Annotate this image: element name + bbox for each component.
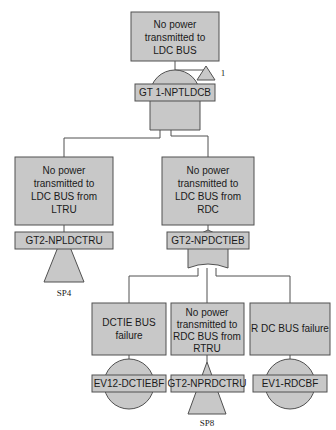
event-text-line: LDC BUS from xyxy=(175,191,241,202)
gate-label: EV12-DCTIEBF xyxy=(94,378,165,389)
connector-and-left xyxy=(64,128,160,157)
top-event[interactable]: No power transmitted to LDC BUS xyxy=(131,12,219,61)
event-text-line: No power xyxy=(43,165,86,176)
event-ltru[interactable]: No power transmitted to LDC BUS from LTR… xyxy=(15,157,113,225)
event-text-line: transmitted to xyxy=(178,178,239,189)
or-gate[interactable]: GT2-NPDCTIEB xyxy=(167,230,249,268)
gate-label: EV1-RDCBF xyxy=(262,378,319,389)
event-text-line: LDC BUS from xyxy=(31,191,97,202)
gate-label: GT2-NPLDCTRU xyxy=(25,235,102,246)
event-text-line: R DC BUS failure xyxy=(251,323,329,334)
top-event-text-line: transmitted to xyxy=(145,32,206,43)
event-rdc[interactable]: No power transmitted to LDC BUS from RDC xyxy=(162,157,254,225)
connector-or-left xyxy=(129,268,198,303)
event-dctie-bus[interactable]: DCTIE BUS failure xyxy=(92,303,166,355)
event-text-line: No power xyxy=(187,165,230,176)
event-box[interactable] xyxy=(92,303,166,355)
gate-label: GT 1-NPTLDCB xyxy=(139,87,211,98)
event-text-line: DCTIE BUS xyxy=(102,317,156,328)
transfer-marker-label: 1 xyxy=(221,68,226,78)
event-text-line: RDC xyxy=(197,204,219,215)
top-event-text-line: No power xyxy=(154,19,197,30)
basic-event-rdcbf[interactable]: EV1-RDCBF xyxy=(253,359,327,409)
event-text-line: transmitted to xyxy=(177,319,238,330)
basic-event-dctiebf[interactable]: EV12-DCTIEBF xyxy=(92,359,166,409)
gate-label: GT2-NPDCTIEB xyxy=(171,235,245,246)
fault-tree-diagram: No power transmitted to LDC BUS GT 1-NPT… xyxy=(0,0,336,430)
event-text-line: RTRU xyxy=(193,343,221,354)
connector-and-right xyxy=(171,130,208,157)
transfer-ref: SP4 xyxy=(57,288,72,298)
event-text-line: transmitted to xyxy=(34,178,95,189)
transfer-gate-sp4[interactable]: GT2-NPLDCTRU SP4 xyxy=(15,232,113,298)
transfer-gate-sp8[interactable]: GT2-NPRDCTRU SP8 xyxy=(168,362,247,428)
transfer-ref: SP8 xyxy=(200,418,215,428)
event-rtru[interactable]: No power transmitted to RDC BUS from RTR… xyxy=(171,303,244,355)
top-event-text-line: LDC BUS xyxy=(153,45,197,56)
gate-label: GT2-NPRDCTRU xyxy=(168,378,247,389)
event-text-line: No power xyxy=(186,307,229,318)
event-text-line: failure xyxy=(115,330,143,341)
event-text-line: RDC BUS from xyxy=(173,331,241,342)
event-rdc-bus[interactable]: R DC BUS failure xyxy=(250,303,330,355)
transfer-triangle-icon xyxy=(197,66,215,80)
transfer-marker: 1 xyxy=(197,66,225,80)
connector-or-right xyxy=(216,268,290,303)
event-text-line: LTRU xyxy=(51,204,76,215)
